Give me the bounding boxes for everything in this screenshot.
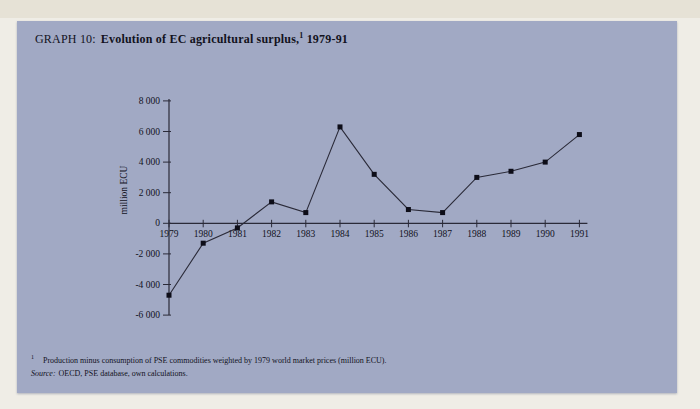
data-point-marker <box>440 210 445 215</box>
x-tick-label: 1984 <box>331 229 350 239</box>
data-point-marker <box>201 241 206 246</box>
x-tick-label: 1987 <box>433 229 452 239</box>
y-tick-label: 0 <box>155 218 160 228</box>
x-tick-label: 1991 <box>570 229 589 239</box>
data-point-marker <box>338 124 343 129</box>
graph-panel: GRAPH 10:Evolution of EC agricultural su… <box>17 21 677 393</box>
x-tick-label: 1990 <box>536 229 555 239</box>
data-point-marker <box>543 160 548 165</box>
x-tick-label: 1989 <box>502 229 521 239</box>
y-tick-label: 4 000 <box>139 157 161 167</box>
data-point-marker <box>577 132 582 137</box>
x-tick-label: 1979 <box>160 229 179 239</box>
x-tick-label: 1988 <box>467 229 486 239</box>
source-label: Source: <box>31 369 56 378</box>
y-axis-title: million ECU <box>119 165 129 214</box>
x-tick-label: 1985 <box>365 229 384 239</box>
x-tick-label: 1983 <box>296 229 315 239</box>
data-point-marker <box>269 199 274 204</box>
data-line <box>169 127 579 295</box>
y-tick-label: 2 000 <box>139 188 161 198</box>
data-point-marker <box>167 293 172 298</box>
y-tick-label: -2 000 <box>135 249 160 259</box>
y-tick-label: -6 000 <box>135 310 160 320</box>
footnote-marker: 1 <box>31 354 34 360</box>
footnote-text: Production minus consumption of PSE comm… <box>43 356 387 365</box>
y-tick-label: 8 000 <box>139 96 161 106</box>
x-tick-label: 1982 <box>262 229 281 239</box>
page-margin-strip <box>0 0 700 18</box>
data-point-marker <box>235 225 240 230</box>
data-point-marker <box>303 210 308 215</box>
source-line: Source:OECD, PSE database, own calculati… <box>31 367 661 380</box>
y-tick-label: 6 000 <box>139 127 161 137</box>
data-point-marker <box>474 175 479 180</box>
x-tick-label: 1986 <box>399 229 418 239</box>
footnotes: 1Production minus consumption of PSE com… <box>31 354 661 380</box>
x-tick-label: 1980 <box>194 229 213 239</box>
data-point-marker <box>372 172 377 177</box>
footnote-line: 1Production minus consumption of PSE com… <box>31 354 661 367</box>
data-point-marker <box>406 207 411 212</box>
data-point-marker <box>509 169 514 174</box>
y-tick-label: -4 000 <box>135 280 160 290</box>
line-chart: 8 0006 0004 0002 0000-2 000-4 000-6 000m… <box>17 21 677 393</box>
source-text: OECD, PSE database, own calculations. <box>59 369 188 378</box>
